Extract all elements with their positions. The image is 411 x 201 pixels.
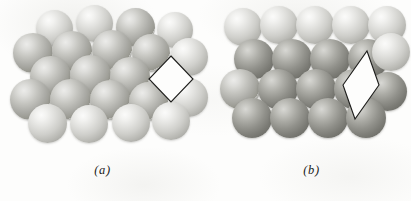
panel-label-a: (a) — [0, 163, 205, 178]
panel-b: (b) — [212, 0, 411, 201]
sphere — [152, 102, 190, 140]
panel-a: (a) — [0, 0, 205, 201]
unit-cell-outline-b — [342, 50, 380, 120]
sphere-packing-b — [212, 0, 411, 160]
sphere — [70, 105, 108, 143]
panel-label-b: (b) — [212, 163, 411, 178]
unit-cell-outline-a — [148, 55, 194, 103]
sphere — [270, 98, 310, 138]
sphere-packing-figure: (a) (b) — [0, 0, 411, 201]
sphere — [28, 104, 67, 143]
sphere — [232, 98, 272, 138]
sphere — [112, 104, 150, 142]
